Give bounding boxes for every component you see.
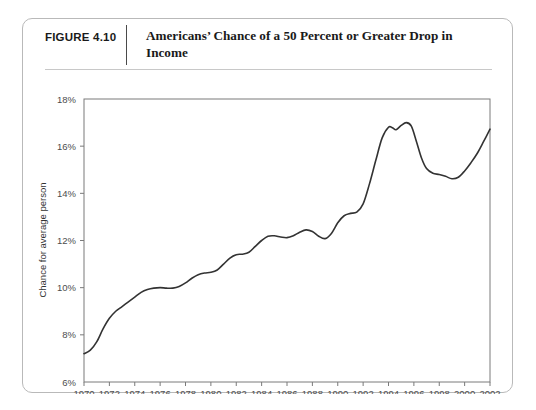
figure-header: FIGURE 4.10 Americans’ Chance of a 50 Pe… — [23, 19, 512, 71]
x-tick-label: 1992 — [353, 388, 374, 395]
figure-title: Americans’ Chance of a 50 Percent or Gre… — [146, 28, 486, 61]
y-tick-label: 8% — [62, 329, 76, 340]
y-tick-label: 14% — [57, 188, 77, 199]
y-tick-label: 12% — [57, 235, 77, 246]
x-tick-label: 1982 — [226, 388, 247, 395]
header-rule — [45, 69, 492, 70]
figure-container: FIGURE 4.10 Americans’ Chance of a 50 Pe… — [22, 18, 513, 393]
y-tick-label: 6% — [62, 377, 76, 388]
figure-number-label: FIGURE 4.10 — [45, 31, 116, 43]
x-tick-label: 1990 — [327, 388, 348, 395]
data-series-line — [84, 123, 490, 354]
x-tick-label: 1984 — [251, 388, 272, 395]
x-tick-label: 1994 — [378, 388, 399, 395]
header-divider — [126, 25, 127, 65]
chart-plot-area: 18%16%14%12%10%8%6% 19701972197419761978… — [23, 71, 512, 394]
x-tick-label: 2002 — [479, 388, 500, 395]
line-chart: 18%16%14%12%10%8%6% 19701972197419761978… — [23, 71, 514, 394]
x-tick-label: 1980 — [200, 388, 221, 395]
x-tick-label: 1976 — [150, 388, 171, 395]
x-tick-label: 1972 — [99, 388, 120, 395]
x-tick-label: 1970 — [73, 388, 94, 395]
y-axis-title: Chance for average person — [37, 182, 48, 297]
plot-frame — [84, 99, 490, 382]
y-axis-ticks: 18%16%14%12%10%8%6% — [57, 94, 84, 388]
x-tick-label: 1986 — [276, 388, 297, 395]
y-tick-label: 10% — [57, 282, 77, 293]
x-tick-label: 1988 — [302, 388, 323, 395]
y-tick-label: 18% — [57, 94, 77, 105]
x-tick-label: 1998 — [429, 388, 450, 395]
x-tick-label: 1996 — [403, 388, 424, 395]
x-tick-label: 1974 — [124, 388, 145, 395]
x-axis-ticks: 1970197219741976197819801982198419861988… — [73, 382, 500, 394]
x-tick-label: 1978 — [175, 388, 196, 395]
y-tick-label: 16% — [57, 141, 77, 152]
x-tick-label: 2000 — [454, 388, 475, 395]
